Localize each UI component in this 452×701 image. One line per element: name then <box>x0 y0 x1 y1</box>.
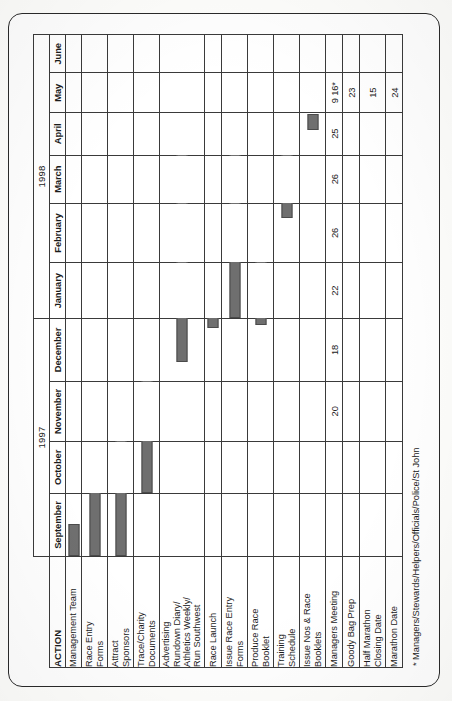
row-label-13: Half Marathon Closing Date <box>360 556 386 667</box>
cell-r4-may <box>134 73 160 112</box>
cell-r6-november <box>205 381 222 441</box>
month-header-may: May <box>50 73 66 112</box>
table-row: Advertising Rundown Diary/ Athletics Wee… <box>160 34 205 667</box>
cell-r6-september <box>205 493 222 556</box>
cell-r1-october <box>66 441 82 493</box>
cell-r7-november <box>222 381 248 441</box>
cell-r12-june <box>343 34 360 73</box>
cell-r9-october <box>274 441 300 493</box>
cell-r5-december <box>160 318 205 381</box>
cell-r10-january <box>300 262 326 318</box>
row-label-8: Produce Race Booklet <box>248 556 274 667</box>
cell-r7-january <box>222 262 248 318</box>
cell-r10-november <box>300 381 326 441</box>
cell-r12-may: 23 <box>343 73 360 112</box>
date-marker: 9 16* <box>329 82 340 103</box>
date-marker: 25 <box>329 128 340 138</box>
date-marker: 22 <box>329 285 340 295</box>
cell-r2-september <box>82 493 108 556</box>
cell-r10-february <box>300 203 326 263</box>
cell-r4-april <box>134 112 160 155</box>
month-header-february: February <box>50 203 66 263</box>
cell-r12-january <box>343 262 360 318</box>
cell-r1-january <box>66 262 82 318</box>
cell-r11-november: 20 <box>326 381 343 441</box>
cell-r2-may <box>82 73 108 112</box>
cell-r11-february: 26 <box>326 203 343 263</box>
cell-r11-december: 18 <box>326 318 343 381</box>
cell-r13-october <box>360 441 386 493</box>
cell-r11-january: 22 <box>326 262 343 318</box>
table-row: Race Entry Forms <box>82 34 108 667</box>
cell-r9-april <box>274 112 300 155</box>
cell-r4-june <box>134 34 160 73</box>
cell-r11-march: 26 <box>326 155 343 203</box>
cell-r14-january <box>386 262 403 318</box>
cell-r7-march <box>222 155 248 203</box>
row-label-5: Advertising Rundown Diary/ Athletics Wee… <box>160 556 205 667</box>
cell-r2-april <box>82 112 108 155</box>
cell-r3-may <box>108 73 134 112</box>
date-marker: 18 <box>329 344 340 354</box>
cell-r7-october <box>222 441 248 493</box>
cell-r3-september <box>108 493 134 556</box>
year-header-row: 1997 1998 <box>34 34 50 667</box>
cell-r8-march <box>248 155 274 203</box>
cell-r13-april <box>360 112 386 155</box>
cell-r7-september <box>222 493 248 556</box>
month-header-october: October <box>50 441 66 493</box>
table-row: Attract Sponsors <box>108 34 134 667</box>
cell-r9-november <box>274 381 300 441</box>
gantt-table: 1997 1998 ACTION September October Novem… <box>33 34 403 668</box>
cell-r12-september <box>343 493 360 556</box>
cell-r2-october <box>82 441 108 493</box>
cell-r1-september <box>66 493 82 556</box>
rotated-chart-wrapper: 1997 1998 ACTION September October Novem… <box>0 0 452 701</box>
cell-r7-december <box>222 318 248 381</box>
cell-r12-december <box>343 318 360 381</box>
cell-r9-january <box>274 262 300 318</box>
table-row: Trace/Charity Documents <box>134 34 160 667</box>
table-row: Issue Race Entry Forms <box>222 34 248 667</box>
cell-r3-december <box>108 318 134 381</box>
date-marker: 24 <box>389 87 400 97</box>
cell-r13-september <box>360 493 386 556</box>
cell-r8-may <box>248 73 274 112</box>
cell-r3-june <box>108 34 134 73</box>
cell-r7-may <box>222 73 248 112</box>
cell-r13-february <box>360 203 386 263</box>
table-row: Goody Bag Prep23 <box>343 34 360 667</box>
year-1997: 1997 <box>34 318 50 556</box>
cell-r10-october <box>300 441 326 493</box>
cell-r10-december <box>300 318 326 381</box>
cell-r14-april <box>386 112 403 155</box>
cell-r8-february <box>248 203 274 263</box>
cell-r1-february <box>66 203 82 263</box>
date-marker: 20 <box>329 406 340 416</box>
table-row: Issue Nos & Race Booklets <box>300 34 326 667</box>
cell-r10-april <box>300 112 326 155</box>
cell-r4-march <box>134 155 160 203</box>
cell-r10-may <box>300 73 326 112</box>
row-label-11: Managers Meeting <box>326 556 343 667</box>
table-row: Training Schedule <box>274 34 300 667</box>
row-label-10: Issue Nos & Race Booklets <box>300 556 326 667</box>
cell-r2-march <box>82 155 108 203</box>
cell-r12-november <box>343 381 360 441</box>
gantt-chart: 1997 1998 ACTION September October Novem… <box>33 34 419 668</box>
cell-r5-may <box>160 73 205 112</box>
cell-r3-november <box>108 381 134 441</box>
cell-r11-june <box>326 34 343 73</box>
cell-r6-march <box>205 155 222 203</box>
cell-r1-march <box>66 155 82 203</box>
cell-r8-november <box>248 381 274 441</box>
cell-r6-october <box>205 441 222 493</box>
cell-r9-december <box>274 318 300 381</box>
cell-r14-june <box>386 34 403 73</box>
cell-r1-may <box>66 73 82 112</box>
month-header-september: September <box>50 493 66 556</box>
cell-r8-december <box>248 318 274 381</box>
date-marker: 26 <box>329 228 340 238</box>
cell-r13-may: 15 <box>360 73 386 112</box>
cell-r13-december <box>360 318 386 381</box>
